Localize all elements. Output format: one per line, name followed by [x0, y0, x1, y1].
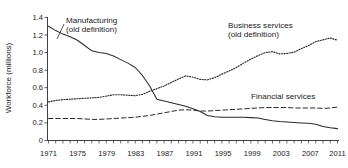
x-tick-label-1999: 1999	[244, 149, 261, 158]
chart-figure: Workforce (millions) 1.4 1.2 1.0 0.8 0.6…	[0, 0, 348, 168]
x-tick-label-1979: 1979	[98, 149, 115, 158]
x-tick-label-1987: 1987	[156, 149, 173, 158]
financial-services-label-line1: Financial services	[251, 92, 315, 101]
y-tick-label-1.0: 1.0	[32, 48, 43, 57]
y-tick-label-0.8: 0.8	[32, 66, 43, 75]
y-tick-label-1.4: 1.4	[32, 13, 43, 22]
x-axis-ticks	[49, 141, 338, 144]
manufacturing-label-line1: Manufacturing	[66, 16, 117, 25]
annotation-business-services: Business services (old definition)	[228, 21, 293, 39]
y-tick-label-0.2: 0.2	[32, 118, 43, 127]
x-tick-label-2011: 2011	[329, 149, 345, 158]
y-axis	[45, 17, 48, 141]
y-tick-label-0.4: 0.4	[32, 101, 43, 110]
y-axis-title: Workforce (millions)	[4, 42, 13, 113]
annotation-financial-services: Financial services	[251, 92, 315, 101]
y-tick-label-0.6: 0.6	[32, 83, 43, 92]
manufacturing-label-line2: (old definition)	[66, 25, 117, 34]
x-tick-label-1991: 1991	[186, 149, 203, 158]
x-tick-label-2007: 2007	[302, 149, 319, 158]
business-services-label-line2: (old definition)	[228, 30, 279, 39]
x-tick-label-2003: 2003	[273, 149, 290, 158]
line-chart: Workforce (millions) 1.4 1.2 1.0 0.8 0.6…	[0, 0, 348, 168]
y-tick-label-0: 0	[39, 136, 43, 145]
x-tick-label-1975: 1975	[69, 149, 86, 158]
x-tick-label-1971: 1971	[40, 149, 57, 158]
x-tick-label-1995: 1995	[215, 149, 232, 158]
x-tick-label-1983: 1983	[127, 149, 144, 158]
y-tick-label-1.2: 1.2	[32, 31, 43, 40]
business-services-label-line1: Business services	[228, 21, 293, 30]
